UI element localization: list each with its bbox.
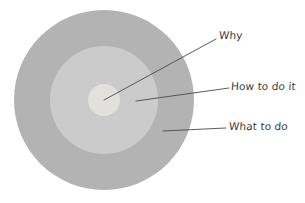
label-how-to-do-it: How to do it — [231, 81, 297, 92]
label-what-to-do: What to do — [229, 121, 289, 132]
label-why: Why — [219, 30, 243, 41]
diagram-canvas: Why How to do it What to do — [0, 0, 305, 203]
concentric-circle-diagram — [0, 0, 305, 203]
